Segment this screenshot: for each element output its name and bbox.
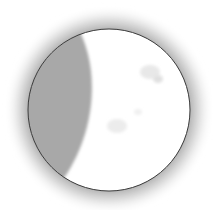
- moon-illustration: [0, 0, 213, 210]
- moon-svg: [0, 0, 213, 210]
